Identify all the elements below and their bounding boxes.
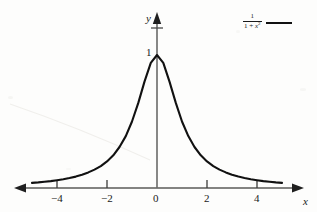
x-tick-label--4: −4 [51, 193, 63, 204]
x-axis-arrow-right [292, 184, 304, 193]
x-axis-label: x [303, 196, 308, 207]
x-tick-label-2: 2 [204, 193, 210, 204]
plot-canvas [0, 0, 317, 212]
scan-smudge [10, 104, 150, 160]
denominator-prefix: 1 + [244, 22, 255, 30]
legend-formula-denominator: 1 + x2 [243, 22, 262, 31]
y-axis-label: y [146, 13, 151, 24]
legend: 1 1 + x2 [243, 12, 292, 30]
x-tick-label--2: −2 [101, 193, 113, 204]
y-axis-arrow-up [153, 12, 161, 24]
x-tick-label-0: 0 [153, 193, 159, 204]
y-tick-label-1: 1 [146, 47, 152, 58]
x-tick-label-4: 4 [254, 193, 260, 204]
legend-formula-numerator: 1 [248, 12, 258, 21]
legend-line-swatch [266, 22, 292, 24]
x-axis-arrow-left [14, 184, 26, 193]
denominator-exponent: 2 [258, 21, 261, 26]
figure-container: −4 −2 0 2 4 1 y x 1 1 + x2 [0, 0, 317, 212]
legend-formula: 1 1 + x2 [243, 12, 262, 30]
